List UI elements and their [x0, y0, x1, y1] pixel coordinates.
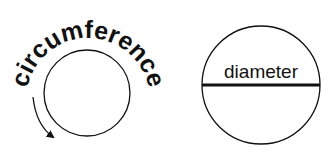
curved-arrow-icon: [33, 97, 53, 137]
diameter-label: diameter: [224, 61, 299, 82]
circumference-figure: circumference: [5, 15, 172, 137]
circumference-label: circumference: [5, 15, 172, 90]
diagram-svg: circumference diameter: [0, 0, 335, 154]
diameter-figure: diameter: [202, 26, 320, 144]
circumference-circle: [44, 50, 130, 136]
diagram-canvas: circumference diameter: [0, 0, 335, 154]
